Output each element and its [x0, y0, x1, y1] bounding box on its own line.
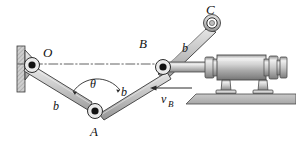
hydraulic-cylinder	[205, 55, 287, 94]
cylinder-foot-left	[216, 80, 236, 94]
pivot-B	[156, 60, 171, 75]
cylinder-foot-right	[253, 80, 273, 94]
ground-surface	[186, 94, 296, 104]
label-velocity-b-subscript: B	[168, 99, 174, 109]
velocity-b-arrow	[150, 85, 192, 90]
label-theta: θ	[90, 77, 96, 91]
label-link-bc: b	[182, 41, 188, 55]
piston-rod	[168, 62, 210, 72]
pivot-A	[88, 104, 103, 119]
theta-arc	[73, 79, 120, 95]
mechanism-figure: O A B C θ b b b v B	[0, 0, 296, 142]
label-point-c: C	[206, 2, 215, 17]
label-link-ob: b	[53, 99, 59, 113]
label-velocity-b: v B	[161, 92, 174, 109]
label-link-ab: b	[121, 85, 127, 99]
label-point-o: O	[43, 45, 53, 60]
pivot-O	[25, 58, 40, 73]
pivot-C	[207, 18, 217, 28]
label-point-b: B	[139, 36, 147, 51]
figure-canvas: O A B C θ b b b v B	[0, 0, 296, 142]
label-point-a: A	[89, 124, 98, 139]
label-velocity-b-main: v	[161, 92, 167, 106]
